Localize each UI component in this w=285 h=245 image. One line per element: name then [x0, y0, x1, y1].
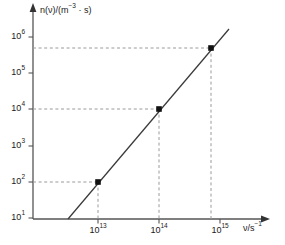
y-tick-label-1e1: 101	[1, 213, 25, 222]
y-tick-label-1e4: 104	[1, 104, 25, 113]
y-axis-title-pre: n(ν)/(m	[40, 5, 69, 15]
y-tick-base-1e2: 10	[11, 176, 21, 186]
y-tick-exp-1e5: 5	[21, 64, 25, 71]
guide-lines	[33, 48, 211, 219]
data-point-1	[95, 179, 101, 185]
y-axis-arrow-icon	[30, 3, 37, 12]
y-axis-title: n(ν)/(m−3 · s)	[40, 6, 91, 15]
data-line-series-1	[68, 29, 229, 219]
x-axis-title-base: ν/s	[243, 223, 255, 233]
y-tick-base-1e3: 10	[11, 140, 21, 150]
y-axis-ticks	[29, 37, 34, 218]
x-tick-label-1e14: 1014	[142, 226, 176, 235]
y-axis-title-post: · s)	[76, 5, 92, 15]
y-tick-label-1e5: 105	[1, 68, 25, 77]
y-tick-base-1e5: 10	[11, 67, 21, 77]
y-axis	[30, 3, 37, 219]
y-tick-exp-1e2: 2	[21, 173, 25, 180]
y-tick-base-1e6: 10	[11, 31, 21, 41]
data-point-3	[208, 45, 214, 51]
x-axis-title-exponent: −1	[255, 220, 262, 227]
x-tick-base-1e13: 10	[89, 225, 99, 235]
y-tick-exp-1e4: 4	[21, 100, 25, 107]
x-axis-arrow-icon	[261, 216, 270, 223]
y-tick-label-1e3: 103	[1, 141, 25, 150]
y-tick-exp-1e3: 3	[21, 137, 25, 144]
x-tick-label-1e13: 1013	[81, 226, 115, 235]
chart-figure: n(ν)/(m−3 · s) ν/s−1 106 105 104 103 102…	[0, 0, 285, 245]
y-tick-base-1e1: 10	[11, 212, 21, 222]
x-axis-ticks	[98, 219, 220, 224]
x-axis-title: ν/s−1	[243, 224, 262, 233]
x-tick-base-1e15: 10	[211, 225, 221, 235]
data-point-2	[156, 106, 162, 112]
x-tick-exp-1e15: 15	[221, 222, 228, 229]
y-tick-exp-1e1: 1	[21, 209, 25, 216]
plot-canvas	[0, 0, 285, 245]
x-tick-label-1e15: 1015	[203, 226, 237, 235]
data-point-markers	[95, 45, 214, 185]
x-tick-base-1e14: 10	[150, 225, 160, 235]
y-axis-title-exponent: −3	[69, 2, 76, 9]
x-tick-exp-1e13: 13	[99, 222, 106, 229]
y-tick-exp-1e6: 6	[21, 28, 25, 35]
y-tick-label-1e2: 102	[1, 177, 25, 186]
y-tick-label-1e6: 106	[1, 32, 25, 41]
y-tick-base-1e4: 10	[11, 103, 21, 113]
x-tick-exp-1e14: 14	[160, 222, 167, 229]
